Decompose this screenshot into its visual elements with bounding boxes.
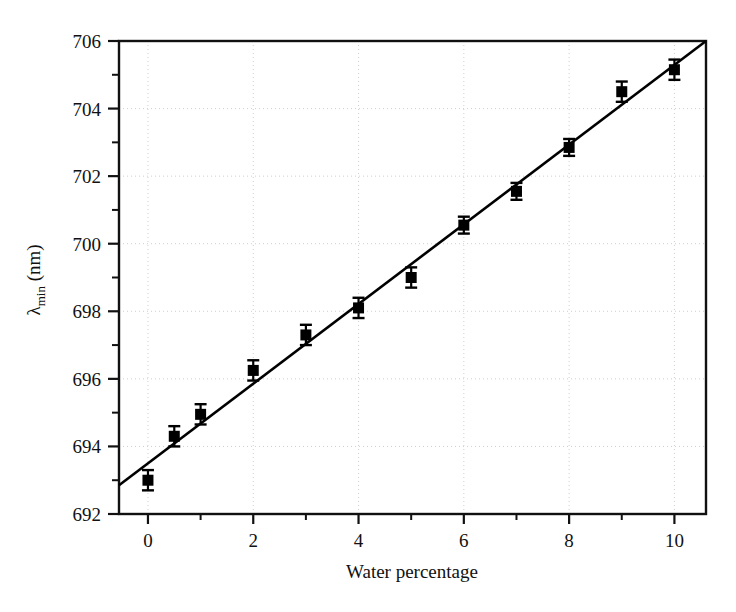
y-tick-label: 698 [73,301,102,322]
y-tick-label: 694 [73,436,102,457]
y-axis-title-unit: (nm) [23,244,45,286]
data-point-marker [300,329,311,340]
data-point-marker [406,272,417,283]
y-tick-label: 704 [73,99,102,120]
y-tick-label: 706 [73,31,102,52]
data-point-marker [142,475,153,486]
y-tick-label: 700 [73,234,102,255]
data-point-marker [564,142,575,153]
data-point-marker [458,220,469,231]
data-point-marker [669,64,680,75]
scatter-plot-figure: 0246810 692694696698700702704706 Water p… [0,0,736,612]
data-point-marker [616,86,627,97]
x-tick-label: 0 [143,530,153,551]
y-tick-label: 696 [73,369,102,390]
x-tick-label: 2 [248,530,258,551]
data-point-marker [195,409,206,420]
data-point-marker [248,365,259,376]
x-tick-label: 6 [459,530,469,551]
data-point-marker [511,186,522,197]
y-tick-label: 702 [73,166,102,187]
x-tick-label: 10 [665,530,684,551]
y-axis-title-subscript: min [33,286,48,307]
x-tick-label: 8 [564,530,574,551]
chart-page: 0246810 692694696698700702704706 Water p… [0,0,736,612]
data-point-marker [353,302,364,313]
y-tick-label: 692 [73,504,102,525]
data-point-marker [169,431,180,442]
x-tick-label: 4 [354,530,364,551]
x-axis-title: Water percentage [346,561,478,582]
